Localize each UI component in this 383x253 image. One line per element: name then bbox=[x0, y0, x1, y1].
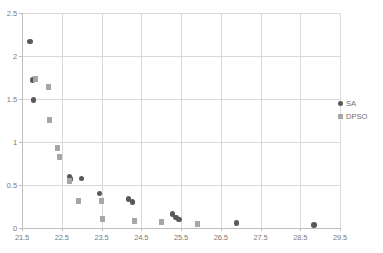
y-axis-tick-label: 2.5 bbox=[0, 9, 17, 18]
legend-marker-dpso-icon bbox=[338, 114, 343, 120]
data-point-dpso bbox=[55, 145, 60, 151]
legend-item-dpso[interactable]: DPSO bbox=[338, 110, 383, 123]
data-point-dpso bbox=[33, 76, 38, 82]
y-axis-tick-label: 2 bbox=[0, 52, 17, 61]
y-axis-tick-label: 0 bbox=[0, 224, 17, 233]
x-axis-tick-label: 24.5 bbox=[126, 233, 156, 242]
x-axis-tick-label: 26.5 bbox=[206, 233, 236, 242]
data-point-sa bbox=[130, 199, 136, 205]
x-tick-mark bbox=[62, 228, 63, 231]
data-point-dpso bbox=[47, 117, 52, 123]
x-tick-mark bbox=[22, 228, 23, 231]
x-axis-tick-label: 29.5 bbox=[325, 233, 355, 242]
x-axis-tick-label: 21.5 bbox=[7, 233, 37, 242]
x-axis-tick-label: 23.5 bbox=[87, 233, 117, 242]
gridline-vertical bbox=[221, 13, 222, 228]
data-point-dpso bbox=[100, 216, 105, 222]
y-tick-mark bbox=[19, 185, 22, 186]
legend-item-sa[interactable]: SA bbox=[338, 97, 383, 110]
x-axis-tick-label: 22.5 bbox=[47, 233, 77, 242]
gridline-horizontal bbox=[22, 56, 340, 57]
data-point-dpso bbox=[195, 221, 200, 227]
gridline-vertical bbox=[141, 13, 142, 228]
data-point-dpso bbox=[57, 154, 62, 160]
chart-legend: SA DPSO bbox=[338, 97, 383, 123]
data-point-sa bbox=[234, 220, 240, 226]
x-tick-mark bbox=[300, 228, 301, 231]
x-tick-mark bbox=[141, 228, 142, 231]
data-point-dpso bbox=[159, 219, 164, 225]
gridline-horizontal bbox=[22, 142, 340, 143]
data-point-dpso bbox=[99, 198, 104, 204]
gridline-horizontal bbox=[22, 13, 340, 14]
plot-area bbox=[22, 13, 340, 228]
x-tick-mark bbox=[261, 228, 262, 231]
y-tick-mark bbox=[19, 142, 22, 143]
legend-marker-sa-icon bbox=[338, 101, 343, 106]
gridline-vertical bbox=[102, 13, 103, 228]
legend-label-sa: SA bbox=[346, 99, 356, 108]
gridline-vertical bbox=[62, 13, 63, 228]
data-point-sa bbox=[311, 222, 317, 228]
x-tick-mark bbox=[181, 228, 182, 231]
y-axis-tick-label: 1.5 bbox=[0, 95, 17, 104]
y-axis-line bbox=[22, 13, 23, 228]
y-axis-tick-label: 1 bbox=[0, 138, 17, 147]
gridline-horizontal bbox=[22, 185, 340, 186]
data-point-dpso bbox=[46, 84, 51, 90]
y-tick-mark bbox=[19, 13, 22, 14]
data-point-dpso bbox=[76, 198, 81, 204]
x-axis-tick-label: 27.5 bbox=[246, 233, 276, 242]
x-axis-tick-label: 25.5 bbox=[166, 233, 196, 242]
y-axis-tick-label: 0.5 bbox=[0, 181, 17, 190]
x-tick-mark bbox=[102, 228, 103, 231]
x-tick-mark bbox=[340, 228, 341, 231]
y-tick-mark bbox=[19, 99, 22, 100]
y-tick-mark bbox=[19, 228, 22, 229]
data-point-dpso bbox=[132, 218, 137, 224]
gridline-vertical bbox=[261, 13, 262, 228]
data-point-sa bbox=[79, 176, 85, 182]
gridline-horizontal bbox=[22, 99, 340, 100]
data-point-sa bbox=[31, 97, 37, 103]
gridline-vertical bbox=[181, 13, 182, 228]
legend-label-dpso: DPSO bbox=[346, 112, 367, 121]
scatter-chart: SA DPSO 21.522.523.524.525.526.527.528.5… bbox=[0, 0, 383, 253]
gridline-vertical bbox=[300, 13, 301, 228]
x-tick-mark bbox=[221, 228, 222, 231]
x-axis-tick-label: 28.5 bbox=[285, 233, 315, 242]
y-tick-mark bbox=[19, 56, 22, 57]
data-point-sa bbox=[176, 217, 182, 223]
data-point-dpso bbox=[67, 178, 72, 184]
data-point-sa bbox=[27, 39, 33, 45]
